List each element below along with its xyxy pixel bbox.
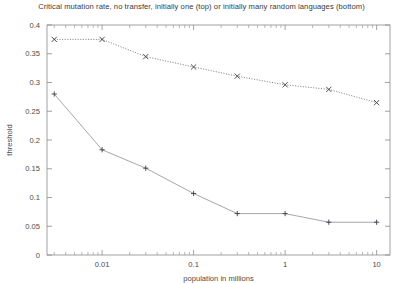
- series-line: [54, 94, 376, 222]
- x-axis-title: population in millions: [183, 274, 254, 283]
- x-tick-label: 0.01: [95, 260, 110, 269]
- y-tick-label: 0.2: [29, 136, 40, 145]
- y-tick-label: 0.3: [29, 78, 40, 87]
- x-tick-label: 1: [283, 260, 287, 269]
- y-tick-label: 0.05: [25, 222, 40, 231]
- x-tick-label: 10: [372, 260, 380, 269]
- y-tick-label: 0.35: [25, 49, 40, 58]
- y-tick-label: 0.4: [29, 21, 40, 30]
- x-tick-label: 0.1: [188, 260, 199, 269]
- plot-frame: [47, 25, 390, 255]
- plot-area: 00.050.10.150.20.250.30.350.40.010.1110p…: [0, 0, 403, 283]
- y-axis-title: threshold: [5, 124, 14, 155]
- y-tick-label: 0.25: [25, 107, 40, 116]
- chart-container: Critical mutation rate, no transfer, ini…: [0, 0, 403, 283]
- series-1: [52, 37, 380, 105]
- y-tick-label: 0.1: [29, 193, 40, 202]
- series-2: [52, 91, 380, 224]
- y-tick-label: 0: [36, 251, 40, 260]
- series-line: [54, 39, 376, 102]
- y-tick-label: 0.15: [25, 164, 40, 173]
